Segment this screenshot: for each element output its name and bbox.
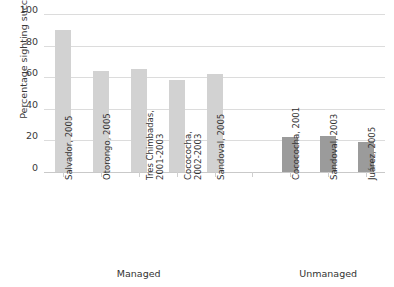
- y-tick-label-0: 0: [0, 163, 38, 172]
- x-tick-label: Salvador, 2005: [65, 94, 75, 180]
- bar-chart-figure: Percentage sighting success 100806040200…: [0, 0, 394, 287]
- x-tick-label: Sandoval, 2005: [217, 94, 227, 180]
- x-tick-mark: [252, 172, 253, 177]
- y-tick-label-40: 40: [0, 100, 38, 109]
- gridline-100: [44, 14, 385, 15]
- x-tick-label: Otorongo, 2005: [103, 94, 113, 180]
- x-tick-label: Juárez, 2005: [368, 94, 378, 180]
- x-tick-mark: [139, 172, 140, 177]
- y-tick-label-80: 80: [0, 37, 38, 46]
- y-tick-label-20: 20: [0, 131, 38, 140]
- y-tick-label-100: 100: [0, 5, 38, 14]
- group-label: Unmanaged: [268, 268, 388, 279]
- x-tick-label: Cocococha, 2002-2003: [184, 94, 203, 180]
- x-tick-label: Sandoval, 2003: [330, 94, 340, 180]
- y-tick-label-60: 60: [0, 68, 38, 77]
- x-tick-label: Cocococha, 2001: [292, 94, 302, 180]
- group-label: Managed: [79, 268, 199, 279]
- x-tick-label: Tres Chimbadas, 2001-2003: [146, 94, 165, 180]
- gridline-80: [44, 46, 385, 47]
- x-tick-mark: [177, 172, 178, 177]
- chart-title: [0, 0, 394, 2]
